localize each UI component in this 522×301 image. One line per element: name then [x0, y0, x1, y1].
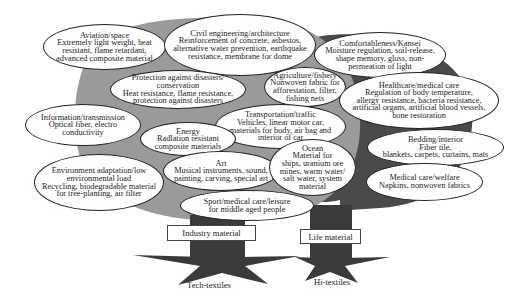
application-agriculture-fishery: Agriculture/fishery Nonwoven fabric for …	[264, 67, 346, 107]
application-medical-welfare: Medical care/welfare Napkins, nonwoven f…	[366, 163, 483, 201]
application-healthcare: Healthcare/medical care Regulation of bo…	[339, 72, 499, 129]
application-line: for tree-planting, air filter	[56, 190, 141, 198]
application-line: for middle aged people	[209, 206, 286, 214]
application-line: bone restoration	[392, 112, 446, 120]
application-line: Napkins, nonwoven fabrics	[379, 182, 470, 190]
application-line: composite materials	[155, 143, 222, 151]
application-sport-leisure: Sport/medical care/leisure for middle ag…	[180, 190, 314, 221]
application-line: resistance, membrane for dome	[188, 53, 292, 61]
application-line: fishing nets	[286, 95, 325, 103]
category-life-material: Life material	[300, 229, 361, 244]
application-art: Art Musical instruments, sound, painting…	[163, 151, 279, 191]
left-roots-star	[133, 238, 300, 285]
application-environment: Environment adaptation/low environmental…	[34, 154, 164, 211]
application-bedding-interior: Bedding/interior Fiber tile, blankets, c…	[367, 129, 504, 166]
root-label-hi-textiles: Hi-textiles	[314, 277, 350, 287]
application-ocean: Ocean Material for ships, uranium ore mi…	[269, 139, 356, 196]
application-civil-engineering: Civil engineering/architecture Reinforce…	[164, 14, 316, 76]
application-aviation-space: Aviation/space Extremely light weight, h…	[43, 24, 166, 70]
root-label-tech-textiles: Tech-textiles	[187, 280, 231, 290]
application-line: conductivity	[62, 129, 103, 137]
application-line: painting, carving, special art	[174, 175, 268, 183]
application-line: protection against disasters	[133, 97, 223, 105]
textile-application-tree-diagram: Aviation/space Extremely light weight, h…	[0, 0, 522, 301]
application-line: material	[299, 183, 326, 191]
application-information-transmission: Information/transmission Optical fiber, …	[25, 104, 141, 146]
application-protection-disasters: Protection against disasters/ conservati…	[110, 70, 246, 109]
application-line: permeation of light	[348, 63, 412, 71]
application-line: blankets, carpets, curtains, mats	[383, 151, 489, 159]
category-industry-material: Industry material	[167, 225, 256, 241]
application-line: advanced composite material	[56, 55, 153, 63]
